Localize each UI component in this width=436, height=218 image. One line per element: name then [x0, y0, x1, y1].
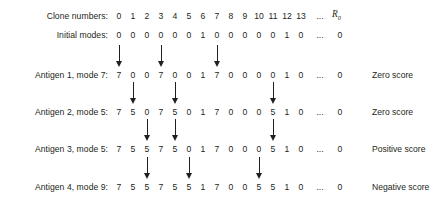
arrow-head — [270, 135, 276, 141]
value-cell: 7 — [154, 182, 168, 192]
value-cell: 7 — [210, 107, 224, 117]
ellipsis: ... — [310, 70, 330, 80]
value-cell: 5 — [168, 107, 182, 117]
value-cell: 0 — [182, 70, 196, 80]
ellipsis: ... — [310, 107, 330, 117]
score-label: Zero score — [372, 107, 413, 117]
value-cell: 0 — [252, 144, 266, 154]
score-label: Zero score — [372, 70, 413, 80]
value-cell: 7 — [112, 70, 126, 80]
row-label-4: Antigen 3, mode 5: — [0, 144, 108, 154]
value-cell: 1 — [280, 182, 294, 192]
clone-number-cell: 8 — [224, 11, 238, 21]
value-cell: 7 — [210, 144, 224, 154]
arrow-shaft — [161, 45, 162, 61]
arrow-shaft — [175, 119, 176, 135]
arrow-shaft — [259, 157, 260, 173]
arrow-shaft — [133, 82, 134, 98]
row-label-1: Initial modes: — [0, 30, 108, 40]
clone-mode-score-diagram: Clone numbers:012345678910111213...R0Ini… — [0, 0, 436, 218]
value-cell: 0 — [238, 182, 252, 192]
r-zero-symbol: R0 — [332, 9, 341, 21]
value-cell: 5 — [182, 182, 196, 192]
value-cell: 5 — [126, 182, 140, 192]
value-cell: 0 — [168, 30, 182, 40]
mutation-arrow — [129, 82, 138, 104]
value-cell: 0 — [224, 70, 238, 80]
clone-number-cell: 1 — [126, 11, 140, 21]
arrow-head — [270, 98, 276, 104]
arrow-shaft — [147, 119, 148, 135]
mutation-arrow — [171, 82, 180, 104]
arrow-head — [144, 135, 150, 141]
value-cell: 0 — [140, 107, 154, 117]
arrow-shaft — [217, 45, 218, 61]
row-label-3: Antigen 2, mode 5: — [0, 107, 108, 117]
value-cell: 0 — [294, 107, 308, 117]
clone-number-cell: 7 — [210, 11, 224, 21]
value-cell: 1 — [196, 182, 210, 192]
tail-value: 0 — [330, 182, 350, 192]
tail-value: 0 — [330, 70, 350, 80]
value-cell: 7 — [154, 107, 168, 117]
value-cell: 5 — [126, 144, 140, 154]
mutation-arrow — [269, 119, 278, 141]
value-cell: 0 — [154, 30, 168, 40]
value-cell: 0 — [238, 30, 252, 40]
ellipsis: ... — [310, 11, 330, 21]
value-cell: 0 — [266, 70, 280, 80]
value-cell: 0 — [238, 144, 252, 154]
arrow-head — [130, 98, 136, 104]
ellipsis: ... — [310, 144, 330, 154]
mutation-arrow — [213, 45, 222, 67]
arrow-shaft — [273, 119, 274, 135]
clone-number-cell: 0 — [112, 11, 126, 21]
clone-number-cell: 13 — [294, 11, 308, 21]
clone-number-cell: 9 — [238, 11, 252, 21]
value-cell: 5 — [140, 144, 154, 154]
arrow-shaft — [189, 157, 190, 173]
mutation-arrow — [185, 157, 194, 179]
value-cell: 0 — [140, 30, 154, 40]
arrow-head — [186, 173, 192, 179]
value-cell: 0 — [266, 30, 280, 40]
value-cell: 0 — [126, 70, 140, 80]
mutation-arrow — [143, 119, 152, 141]
value-cell: 5 — [266, 144, 280, 154]
value-cell: 7 — [154, 70, 168, 80]
value-cell: 0 — [168, 70, 182, 80]
value-cell: 0 — [252, 70, 266, 80]
value-cell: 1 — [280, 70, 294, 80]
value-cell: 0 — [294, 70, 308, 80]
value-cell: 0 — [294, 182, 308, 192]
tail-value: 0 — [330, 107, 350, 117]
value-cell: 0 — [224, 182, 238, 192]
value-cell: 0 — [238, 70, 252, 80]
value-cell: 5 — [252, 182, 266, 192]
value-cell: 5 — [126, 107, 140, 117]
arrow-head — [158, 61, 164, 67]
clone-number-cell: 12 — [280, 11, 294, 21]
score-label: Negative score — [372, 182, 429, 192]
arrow-shaft — [147, 157, 148, 173]
arrow-shaft — [175, 82, 176, 98]
value-cell: 0 — [112, 30, 126, 40]
value-cell: 1 — [196, 70, 210, 80]
value-cell: 5 — [168, 182, 182, 192]
clone-number-cell: 4 — [168, 11, 182, 21]
value-cell: 0 — [224, 30, 238, 40]
value-cell: 0 — [238, 107, 252, 117]
value-cell: 0 — [182, 30, 196, 40]
value-cell: 7 — [210, 182, 224, 192]
arrow-head — [214, 61, 220, 67]
mutation-arrow — [143, 157, 152, 179]
value-cell: 7 — [112, 107, 126, 117]
value-cell: 5 — [168, 144, 182, 154]
value-cell: 7 — [112, 182, 126, 192]
value-cell: 0 — [140, 70, 154, 80]
clone-number-cell: 3 — [154, 11, 168, 21]
clone-number-cell: 10 — [252, 11, 266, 21]
value-cell: 5 — [140, 182, 154, 192]
mutation-arrow — [171, 119, 180, 141]
value-cell: 5 — [266, 182, 280, 192]
